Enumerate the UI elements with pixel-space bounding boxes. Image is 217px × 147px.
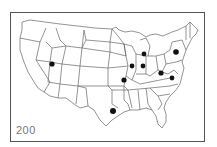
markers [49, 49, 178, 114]
marker-virginia [170, 76, 175, 81]
marker-missouri [121, 77, 126, 82]
marker-texas-louisiana [110, 108, 116, 114]
marker-illinois [130, 64, 135, 69]
map-label: 200 [16, 124, 36, 136]
state-borders [20, 20, 198, 128]
marker-utah [49, 61, 54, 66]
marker-west-virginia [158, 70, 163, 75]
marker-new-york [173, 49, 179, 55]
marker-indiana [141, 64, 146, 69]
marker-michigan [142, 52, 147, 57]
